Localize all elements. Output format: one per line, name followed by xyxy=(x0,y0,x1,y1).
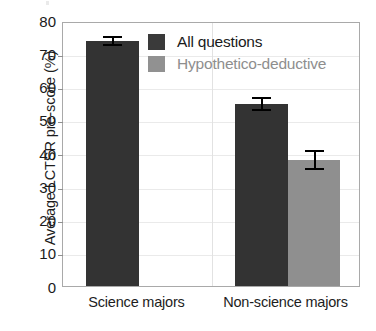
y-tick-label: 0 xyxy=(30,280,56,295)
error-bar-non-science-majors-all-questions xyxy=(252,97,271,111)
y-tick-mark xyxy=(58,89,63,90)
y-tick-label: 60 xyxy=(30,80,56,95)
error-bar-cap-top xyxy=(252,97,271,99)
legend: All questions Hypothetico-deductive xyxy=(148,31,326,75)
y-axis-tick-labels: 80 70 60 50 40 30 20 10 0 xyxy=(26,0,56,331)
error-bar-science-majors-all-questions xyxy=(103,36,122,46)
error-bar-cap-top xyxy=(103,36,122,38)
bar-science-majors-all-questions[interactable] xyxy=(86,41,139,286)
y-tick-mark xyxy=(58,56,63,57)
legend-item-all-questions[interactable]: All questions xyxy=(148,31,326,53)
bar-non-science-majors-hypothetico-deductive[interactable] xyxy=(288,160,340,286)
y-tick-label: 10 xyxy=(30,246,56,261)
legend-label: All questions xyxy=(177,33,262,51)
legend-swatch-icon xyxy=(148,34,165,50)
legend-label: Hypothetico-deductive xyxy=(177,55,326,73)
y-tick-mark xyxy=(58,155,63,156)
y-tick-label: 50 xyxy=(30,113,56,128)
y-tick-mark xyxy=(58,255,63,256)
error-bar-cap-bottom xyxy=(305,168,324,170)
y-tick-mark xyxy=(58,122,63,123)
legend-swatch-icon xyxy=(148,56,165,72)
y-tick-label: 20 xyxy=(30,213,56,228)
bar-non-science-majors-all-questions[interactable] xyxy=(235,104,288,286)
error-bar-cap-bottom xyxy=(103,44,122,46)
y-tick-label: 40 xyxy=(30,147,56,162)
y-tick-label: 80 xyxy=(30,14,56,29)
legend-item-hypothetico-deductive[interactable]: Hypothetico-deductive xyxy=(148,53,326,75)
error-bar-stem xyxy=(314,150,316,170)
error-bar-non-science-majors-hypothetico-deductive xyxy=(305,150,324,170)
y-tick-label: 70 xyxy=(30,47,56,62)
error-bar-cap-bottom xyxy=(252,109,271,111)
y-tick-mark xyxy=(58,189,63,190)
y-tick-mark xyxy=(58,222,63,223)
x-axis-label-non-science-majors: Non-science majors xyxy=(211,294,360,310)
error-bar-cap-top xyxy=(305,150,324,152)
x-axis-label-science-majors: Science majors xyxy=(62,294,211,310)
y-tick-label: 30 xyxy=(30,180,56,195)
bar-chart: Average LCTSR pre-score (%) 80 70 60 50 … xyxy=(0,0,376,331)
